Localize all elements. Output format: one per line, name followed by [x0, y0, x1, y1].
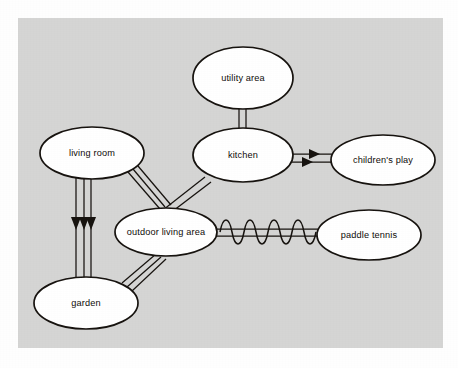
edge-garden-to-outdoor-living-area [122, 254, 166, 291]
edge-kitchen-to-childrens-play [292, 149, 333, 167]
arrow-head-down-left [71, 217, 81, 230]
node-label-childrens-play: children's play [353, 155, 413, 165]
arrow-head-right-upper [309, 149, 320, 159]
diagram-svg: utility area living room kitchen childre… [0, 0, 458, 368]
node-label-living-room: living room [69, 148, 115, 158]
node-garden[interactable]: garden [34, 277, 138, 329]
node-utility-area[interactable]: utility area [193, 47, 293, 109]
wavy-connector-overlay [220, 220, 316, 244]
node-childrens-play[interactable]: children's play [331, 135, 435, 185]
arrow-head-down-right [86, 217, 96, 230]
node-outdoor-living-area[interactable]: outdoor living area [115, 208, 217, 256]
edge-living-room-to-outdoor-living-area [128, 166, 171, 209]
node-paddle-tennis[interactable]: paddle tennis [317, 210, 421, 260]
node-kitchen[interactable]: kitchen [193, 128, 293, 182]
edge-outdoor-living-area-to-paddle-tennis [216, 220, 321, 244]
arrow-head-right-lower [302, 157, 313, 167]
edge-living-room-to-garden [71, 177, 96, 281]
node-label-kitchen: kitchen [228, 150, 258, 160]
node-label-outdoor-living-area: outdoor living area [127, 227, 206, 237]
node-label-utility-area: utility area [221, 73, 265, 83]
node-label-garden: garden [71, 298, 101, 308]
node-label-paddle-tennis: paddle tennis [341, 230, 398, 240]
diagram-canvas: utility area living room kitchen childre… [0, 0, 458, 368]
node-living-room[interactable]: living room [40, 127, 144, 179]
